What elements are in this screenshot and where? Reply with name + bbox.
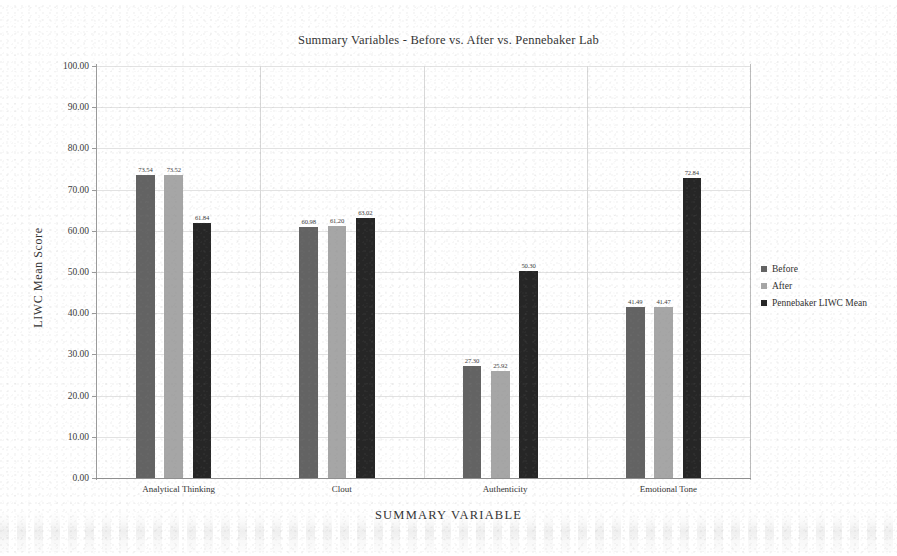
- bar: 60.98: [299, 227, 318, 478]
- y-axis-tick-label: 40.00: [68, 308, 89, 318]
- bar: 63.02: [356, 218, 375, 478]
- legend-label: Before: [772, 264, 798, 274]
- bar: 61.20: [328, 226, 347, 478]
- bar-value-label: 73.52: [167, 166, 181, 173]
- bar-value-label: 73.54: [138, 166, 152, 173]
- bar: 41.49: [626, 307, 645, 478]
- bar-chart-figure: Summary Variables - Before vs. After vs.…: [0, 0, 897, 556]
- bar: 50.30: [519, 271, 538, 478]
- legend-label: After: [772, 281, 792, 291]
- bar: 61.84: [193, 223, 212, 478]
- x-axis-title: SUMMARY VARIABLE: [0, 508, 897, 523]
- y-axis-tick-label: 10.00: [68, 432, 89, 442]
- legend-swatch: [761, 266, 767, 272]
- bar: 73.52: [164, 175, 183, 478]
- legend-entry: Pennebaker LIWC Mean: [761, 298, 867, 308]
- bar: 41.47: [654, 307, 673, 478]
- bars-layer: 73.5473.5261.8460.9861.2063.0227.3025.92…: [97, 66, 750, 478]
- bar: 27.30: [463, 366, 482, 478]
- y-axis-tick-label: 30.00: [68, 349, 89, 359]
- category-label: Clout: [332, 484, 352, 494]
- plot-area: 0.0010.0020.0030.0040.0050.0060.0070.008…: [97, 66, 750, 478]
- y-axis-tick-label: 60.00: [68, 226, 89, 236]
- y-axis-tick-label: 100.00: [63, 61, 89, 71]
- bar: 72.84: [683, 178, 702, 478]
- bar-value-label: 25.92: [493, 362, 507, 369]
- bar-value-label: 41.47: [656, 298, 670, 305]
- bar-value-label: 50.30: [521, 262, 535, 269]
- category-label: Analytical Thinking: [142, 484, 215, 494]
- y-axis-tick-label: 50.00: [68, 267, 89, 277]
- y-axis-tick-label: 90.00: [68, 102, 89, 112]
- bar-value-label: 72.84: [685, 169, 699, 176]
- legend-entry: After: [761, 281, 867, 291]
- bar-value-label: 60.98: [302, 218, 316, 225]
- chart-title: Summary Variables - Before vs. After vs.…: [0, 33, 897, 48]
- legend-entry: Before: [761, 264, 867, 274]
- plot-right-border: [750, 64, 751, 480]
- category-label: Authenticity: [483, 484, 528, 494]
- bar-value-label: 61.20: [330, 217, 344, 224]
- y-axis-tick-label: 0.00: [72, 473, 89, 483]
- y-axis-tick-label: 80.00: [68, 143, 89, 153]
- category-label: Emotional Tone: [640, 484, 697, 494]
- y-axis-title: LIWC Mean Score: [31, 168, 46, 388]
- bar: 25.92: [491, 371, 510, 478]
- bar-value-label: 27.30: [465, 357, 479, 364]
- bar: 73.54: [136, 175, 155, 478]
- y-axis-tick-label: 70.00: [68, 185, 89, 195]
- bar-value-label: 63.02: [358, 209, 372, 216]
- bar-value-label: 41.49: [628, 298, 642, 305]
- chart-legend: BeforeAfterPennebaker LIWC Mean: [761, 264, 867, 315]
- legend-label: Pennebaker LIWC Mean: [772, 298, 867, 308]
- y-axis-tick-label: 20.00: [68, 391, 89, 401]
- legend-swatch: [761, 300, 767, 306]
- legend-swatch: [761, 283, 767, 289]
- bar-value-label: 61.84: [195, 214, 209, 221]
- x-axis-line: [96, 478, 751, 479]
